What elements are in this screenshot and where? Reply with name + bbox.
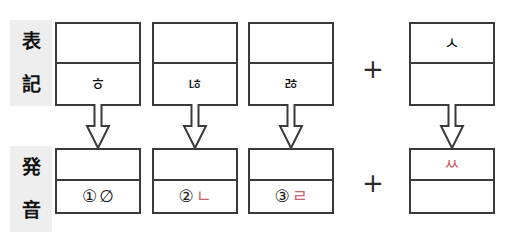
pronunciation-box-3-jamo: ㄹ <box>292 188 308 205</box>
notation-box-3-bottom: ㅀ <box>250 64 332 104</box>
pronunciation-box-2-top <box>154 150 236 181</box>
pronunciation-box-1-top <box>57 150 139 181</box>
notation-box-3: ㅀ <box>248 22 334 106</box>
pronunciation-box-1-jamo: ∅ <box>99 188 114 205</box>
notation-box-4: ㅅ <box>409 22 495 106</box>
notation-box-1-bottom: ㅎ <box>57 64 139 104</box>
notation-box-2-bottom: ㄶ <box>154 64 236 104</box>
pronunciation-box-2: ② ㄴ <box>152 148 238 214</box>
pronunciation-box-2-number: ② <box>178 188 193 205</box>
row-label-pronunciation: 発 音 <box>10 146 52 232</box>
pronunciation-box-4-top: ㅆ <box>411 150 493 181</box>
pronunciation-box-3-bottom: ③ ㄹ <box>250 181 332 212</box>
pronunciation-box-1-number: ① <box>82 188 97 205</box>
pronunciation-box-3-top <box>250 150 332 181</box>
pronunciation-box-2-jamo: ㄴ <box>196 188 212 205</box>
pronunciation-box-1-bottom: ① ∅ <box>57 181 139 212</box>
down-arrow-icon-1 <box>85 104 111 150</box>
row-label-pronunciation-char1: 発 <box>22 158 41 177</box>
notation-box-4-bottom <box>411 64 493 104</box>
down-arrow-icon-3 <box>278 104 304 150</box>
pronunciation-box-3-number: ③ <box>274 188 289 205</box>
row-label-pronunciation-char2: 音 <box>22 201 41 220</box>
notation-box-4-top: ㅅ <box>411 24 493 64</box>
notation-box-1-top <box>57 24 139 64</box>
notation-box-2: ㄶ <box>152 22 238 106</box>
row-label-notation-char2: 記 <box>22 75 41 94</box>
pronunciation-box-2-bottom: ② ㄴ <box>154 181 236 212</box>
row-label-notation-char1: 表 <box>22 32 41 51</box>
down-arrow-icon-4 <box>439 104 465 150</box>
notation-box-1: ㅎ <box>55 22 141 106</box>
pronunciation-box-1: ① ∅ <box>55 148 141 214</box>
down-arrow-icon-2 <box>182 104 208 150</box>
notation-box-2-top <box>154 24 236 64</box>
row-label-notation: 表 記 <box>10 20 52 106</box>
notation-box-3-top <box>250 24 332 64</box>
plus-operator-top: + <box>362 56 384 82</box>
pronunciation-box-4: ㅆ <box>409 148 495 214</box>
pronunciation-box-3: ③ ㄹ <box>248 148 334 214</box>
plus-operator-bottom: + <box>362 170 384 196</box>
pronunciation-box-4-bottom <box>411 181 493 212</box>
phonology-diagram: 表 記 発 音 ㅎ ㄶ ㅀ ㅅ + <box>0 0 507 238</box>
